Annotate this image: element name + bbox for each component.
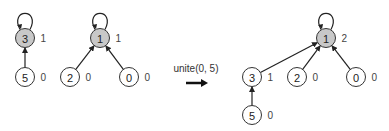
node-label: 1 bbox=[97, 33, 103, 45]
node-label: 2 bbox=[294, 72, 300, 84]
node-label: 3 bbox=[249, 72, 255, 84]
node-rank: 1 bbox=[116, 33, 122, 44]
node-5: 50 bbox=[16, 68, 47, 87]
node-2: 20 bbox=[288, 68, 319, 87]
node-3: 31 bbox=[16, 29, 47, 48]
node-rank: 2 bbox=[342, 33, 348, 44]
operation: unite(0, 5) bbox=[173, 63, 218, 87]
node-0: 00 bbox=[120, 68, 151, 87]
after-forest: 1231200050 bbox=[243, 13, 378, 124]
before-forest: 3150112000 bbox=[16, 13, 151, 86]
node-label: 2 bbox=[67, 72, 73, 84]
node-label: 5 bbox=[22, 72, 28, 84]
edge-0-to-1 bbox=[332, 46, 350, 70]
node-0: 00 bbox=[347, 68, 378, 87]
node-label: 1 bbox=[323, 33, 329, 45]
node-rank: 0 bbox=[145, 72, 151, 83]
node-2: 20 bbox=[61, 68, 92, 87]
node-rank: 0 bbox=[41, 72, 47, 83]
node-rank: 0 bbox=[313, 72, 319, 83]
node-rank: 0 bbox=[372, 72, 378, 83]
edge-2-to-1 bbox=[76, 46, 94, 70]
node-1: 11 bbox=[91, 29, 122, 48]
node-label: 0 bbox=[126, 72, 132, 84]
node-rank: 0 bbox=[268, 110, 274, 121]
edge-0-to-1 bbox=[106, 46, 123, 69]
node-label: 0 bbox=[353, 72, 359, 84]
union-find-diagram: 3150112000 unite(0, 5) 1231200050 bbox=[0, 0, 389, 131]
node-rank: 1 bbox=[41, 33, 47, 44]
right-arrow-icon bbox=[186, 79, 208, 87]
node-label: 3 bbox=[22, 33, 28, 45]
node-rank: 1 bbox=[268, 72, 274, 83]
node-3: 31 bbox=[243, 68, 274, 87]
edge-3-to-1 bbox=[260, 43, 317, 73]
node-5: 50 bbox=[243, 106, 274, 125]
node-1: 12 bbox=[317, 29, 348, 48]
node-rank: 0 bbox=[86, 72, 92, 83]
operation-label: unite(0, 5) bbox=[173, 63, 218, 74]
node-label: 5 bbox=[249, 110, 255, 122]
